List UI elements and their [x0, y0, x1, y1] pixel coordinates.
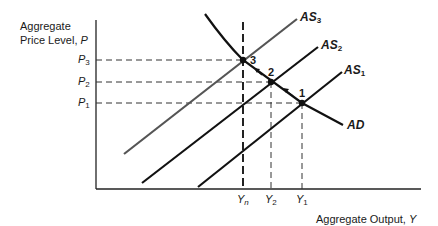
x-axis-var: Y [409, 213, 416, 225]
point-2-label: 2 [268, 66, 274, 79]
label-as1-base: AS [344, 63, 361, 77]
label-as3-sub: 3 [317, 16, 321, 25]
tick-p3-sub: 3 [85, 58, 89, 67]
y-axis-label-text: Price Level, [20, 34, 81, 46]
label-as3-base: AS [300, 10, 317, 24]
label-as2-base: AS [321, 38, 338, 52]
tick-yn-sub: n [244, 198, 248, 207]
point-3 [240, 57, 246, 63]
tick-p1-sub: 1 [85, 101, 89, 110]
tick-y1-sub: 1 [303, 198, 307, 207]
y-axis-label-line2: Price Level, P [20, 34, 88, 47]
x-axis-label: Aggregate Output, Y [316, 213, 416, 226]
tick-y2: Y2 [265, 193, 277, 209]
point-1-label: 1 [299, 87, 305, 100]
tick-y2-sub: 2 [272, 198, 276, 207]
tick-p2-sub: 2 [85, 80, 89, 89]
tick-p1: P1 [78, 96, 90, 112]
label-ad: AD [347, 119, 364, 132]
label-as2: AS2 [321, 39, 342, 55]
point-3-label: 3 [250, 54, 256, 67]
y-axis-label-line1: Aggregate [20, 20, 71, 33]
y-axis-var: P [81, 34, 88, 46]
tick-p2: P2 [78, 75, 90, 91]
label-as1-sub: 1 [361, 69, 365, 78]
tick-yn: Yn [237, 193, 249, 209]
point-1 [299, 100, 305, 106]
x-axis-label-text: Aggregate Output, [316, 213, 409, 225]
as1-curve [198, 72, 342, 187]
label-as1: AS1 [344, 64, 365, 80]
tick-y1: Y1 [296, 193, 308, 209]
label-as3: AS3 [300, 11, 321, 27]
tick-p3: P3 [78, 53, 90, 69]
point-2 [268, 79, 274, 85]
label-as2-sub: 2 [338, 44, 342, 53]
label-ad-base: AD [347, 118, 364, 132]
